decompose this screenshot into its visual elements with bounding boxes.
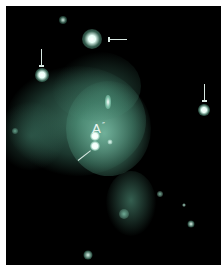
nebula-upper <box>51 51 141 121</box>
source-small-right-center <box>108 140 113 145</box>
source-bottom-right <box>188 221 195 228</box>
source-right <box>198 104 210 116</box>
arrow-right-head <box>202 100 207 102</box>
astronomical-image: A ″ <box>6 6 221 265</box>
source-label-A: A <box>92 122 101 135</box>
source-jet <box>105 95 111 109</box>
source-A-lower <box>90 141 100 151</box>
source-top-bright <box>82 29 102 49</box>
arrow-left-head <box>39 65 44 67</box>
source-left <box>35 68 49 82</box>
arrow-top-head <box>108 37 110 42</box>
source-lower-right <box>157 191 163 197</box>
label-tick: ″ <box>102 120 105 133</box>
arrow-right-vertical <box>204 84 205 101</box>
source-bottom <box>84 251 93 260</box>
arrow-top-horizontal <box>109 39 127 40</box>
source-lower-lobe <box>119 209 129 219</box>
source-tiny <box>183 204 186 207</box>
arrow-left-vertical <box>41 49 42 66</box>
source-left-faint <box>12 128 18 134</box>
source-top-small <box>59 16 67 24</box>
nebula-lower-lobe <box>106 171 156 236</box>
